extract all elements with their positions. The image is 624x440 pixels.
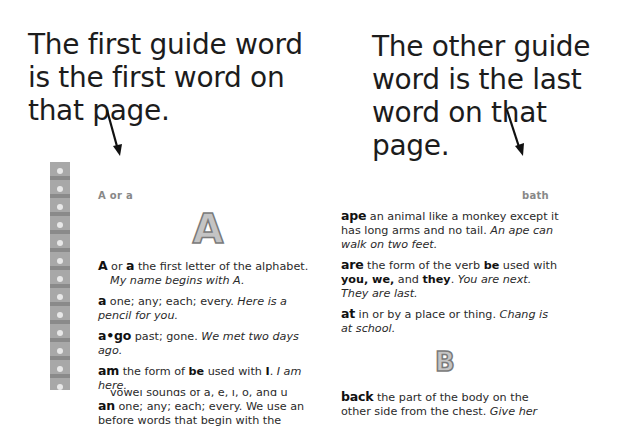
binding-ring — [57, 294, 63, 300]
binding-ring — [57, 204, 63, 210]
cutoff-line: vowel sounds of a, e, i, o, and u — [98, 390, 328, 400]
binding-ring — [57, 168, 63, 174]
binding-ring — [57, 384, 63, 390]
entry-a-article: a one; any; each; every. Here is a penci… — [98, 294, 318, 323]
arrow-down-icon — [104, 108, 124, 158]
entry-at: at in or by a place or thing. Chang is a… — [341, 307, 561, 336]
callout-other-guide-word: The other guide word is the last word on… — [372, 30, 624, 162]
entry-am: am the form of be used with I. I am here… — [98, 364, 318, 393]
entry-a: A or a the first letter of the alphabet.… — [98, 259, 318, 288]
binding-ring — [57, 312, 63, 318]
entry-an: an one; any; each; every. We use an befo… — [98, 399, 318, 429]
entry-ape: ape an animal like a monkey except it ha… — [341, 209, 561, 252]
binding-ring — [57, 258, 63, 264]
section-letter-b: B — [341, 348, 549, 376]
binding-ring — [57, 366, 63, 372]
binding-ring — [57, 276, 63, 282]
arrow-down-icon — [504, 108, 526, 158]
binding-ring — [57, 222, 63, 228]
binding-ring — [57, 330, 63, 336]
callout-first-guide-word: The first guide word is the first word o… — [28, 28, 328, 127]
entry-back: back the part of the body on the other s… — [341, 390, 561, 419]
guide-word-right: bath — [341, 190, 549, 201]
section-letter-a: A — [98, 209, 318, 249]
entry-ago: a•go past; gone. We met two days ago. — [98, 329, 318, 358]
guide-word-left: A or a — [98, 190, 318, 201]
dictionary-page-right: bath ape an animal like a monkey except … — [341, 190, 561, 425]
binding-ring — [57, 186, 63, 192]
entry-are: are the form of the verb be used with yo… — [341, 258, 561, 301]
binding-ring — [57, 240, 63, 246]
binding-ring — [57, 348, 63, 354]
spiral-binding — [50, 162, 70, 390]
